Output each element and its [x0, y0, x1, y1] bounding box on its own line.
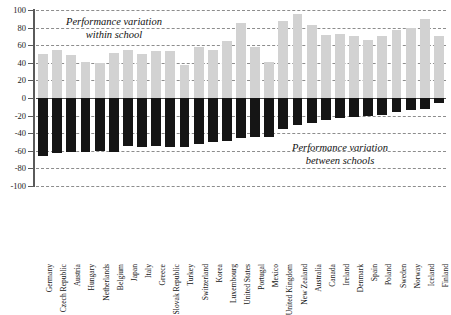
bar-segment-within-school [335, 34, 345, 98]
y-tick-80 [28, 28, 35, 29]
bar-segment-between-schools [180, 98, 190, 147]
bar-segment-within-school [349, 36, 359, 98]
y-tick-label-100: 100 [2, 6, 26, 15]
bar-segment-between-schools [335, 98, 345, 118]
y-tick-60 [28, 45, 35, 46]
bar-segment-within-school [236, 23, 246, 98]
bar-segment-between-schools [293, 98, 303, 125]
category-label: Korea [216, 264, 224, 283]
bar-segment-within-school [109, 53, 119, 98]
annotation-between-schools-line2: between schools [292, 155, 388, 168]
y-tick--60 [28, 151, 35, 152]
category-label: Norway [414, 264, 422, 288]
bar-segment-between-schools [377, 98, 387, 115]
category-label: Hungary [88, 264, 96, 291]
bar-segment-within-school [307, 25, 317, 98]
bar-segment-between-schools [420, 98, 430, 109]
bar-segment-within-school [321, 35, 331, 98]
bar-segment-between-schools [194, 98, 204, 144]
bar-segment-between-schools [66, 98, 76, 152]
category-label: United States [244, 264, 252, 305]
y-tick--80 [28, 168, 35, 169]
y-tick-label--40: -40 [2, 129, 26, 138]
bar-segment-between-schools [52, 98, 62, 153]
bar-segment-within-school [377, 36, 387, 98]
category-label: Luxembourg [230, 264, 238, 303]
category-label: Belgium [117, 264, 125, 290]
y-tick-label-0: 0 [2, 94, 26, 103]
bar-segment-between-schools [406, 98, 416, 110]
y-tick-40 [28, 63, 35, 64]
category-label: Iceland [428, 264, 436, 286]
bar-segment-within-school [194, 47, 204, 98]
category-label: Poland [385, 264, 393, 285]
bar-segment-between-schools [236, 98, 246, 138]
y-tick--100 [28, 186, 35, 187]
y-tick-20 [28, 80, 35, 81]
bar-segment-between-schools [95, 98, 105, 151]
bar-segment-between-schools [109, 98, 119, 152]
bar-segment-between-schools [434, 98, 444, 103]
y-tick-label-60: 60 [2, 41, 26, 50]
category-label: Netherlands [103, 264, 111, 301]
annotation-within-school-line1: Performance variation [66, 16, 162, 29]
category-label: Slovak Republic [173, 264, 181, 314]
category-label: Finland [442, 264, 450, 287]
category-label: Canada [329, 264, 337, 287]
category-label: Sweden [400, 264, 408, 288]
annotation-between-schools: Performance variation between schools [292, 142, 388, 167]
bar-segment-between-schools [392, 98, 402, 112]
y-tick-label--60: -60 [2, 147, 26, 156]
bar-segment-within-school [208, 50, 218, 98]
y-tick-0 [28, 98, 35, 99]
y-tick-100 [28, 10, 35, 11]
bar-segment-between-schools [81, 98, 91, 152]
y-tick-label--100: -100 [2, 182, 26, 191]
bar-segment-within-school [165, 51, 175, 98]
y-tick-label--20: -20 [2, 112, 26, 121]
category-label: Portugal [258, 264, 266, 290]
bar-segment-within-school [222, 41, 232, 98]
bar-segment-within-school [151, 51, 161, 98]
bar-segment-within-school [278, 21, 288, 98]
bar-segment-within-school [420, 19, 430, 98]
bar-segment-within-school [180, 65, 190, 98]
bar-segment-between-schools [38, 98, 48, 156]
bar-segment-between-schools [222, 98, 232, 141]
bar-segment-within-school [81, 62, 91, 98]
bar-segment-between-schools [307, 98, 317, 123]
bar-segment-within-school [95, 63, 105, 98]
category-label: Turkey [187, 264, 195, 286]
category-label: Italy [145, 264, 153, 278]
bar-segment-between-schools [208, 98, 218, 142]
bar-segment-between-schools [321, 98, 331, 120]
category-label: Switzerland [202, 264, 210, 300]
bar-segment-between-schools [278, 98, 288, 129]
annotation-within-school: Performance variation within school [66, 16, 162, 41]
category-label: Greece [159, 264, 167, 286]
bar-segment-within-school [392, 30, 402, 98]
bar-segment-between-schools [123, 98, 133, 146]
y-tick-label-40: 40 [2, 59, 26, 68]
bar-segment-between-schools [349, 98, 359, 117]
category-label: Germany [46, 264, 54, 292]
category-label: Mexico [272, 264, 280, 287]
category-label: Australia [315, 264, 323, 292]
y-tick--40 [28, 133, 35, 134]
category-label: Japan [131, 264, 139, 281]
category-label: Ireland [343, 264, 351, 286]
category-label: Czech Republic [60, 264, 68, 312]
bar-segment-within-school [406, 28, 416, 98]
bar-segment-within-school [38, 54, 48, 98]
category-label: New Zealand [301, 264, 309, 305]
y-tick-label-80: 80 [2, 24, 26, 33]
bar-segment-within-school [293, 14, 303, 98]
category-labels-group: GermanyCzech RepublicAustriaHungaryNethe… [36, 188, 446, 266]
bar-segment-between-schools [264, 98, 274, 137]
bar-segment-within-school [52, 50, 62, 98]
y-tick-label-20: 20 [2, 76, 26, 85]
bar-segment-between-schools [250, 98, 260, 137]
bar-segment-within-school [66, 55, 76, 98]
y-tick-label--80: -80 [2, 164, 26, 173]
